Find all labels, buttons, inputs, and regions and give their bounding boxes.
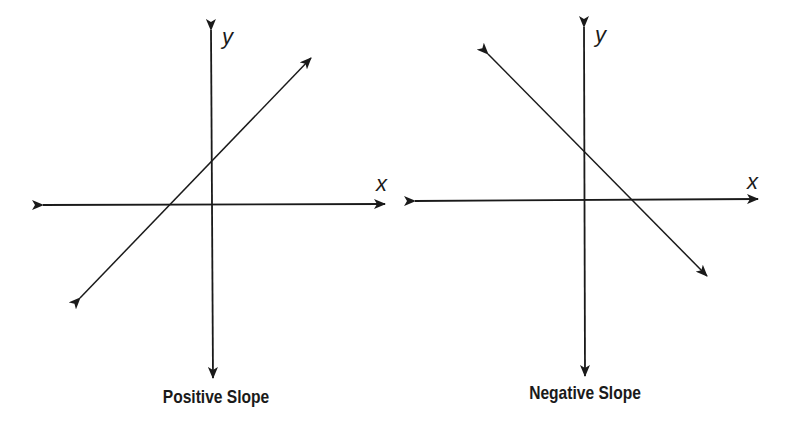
negative-slope-graph bbox=[415, 27, 758, 376]
y-axis bbox=[584, 27, 585, 376]
negative-slope-caption: Negative Slope bbox=[503, 382, 667, 404]
y-axis-label: y bbox=[595, 22, 606, 48]
positive-slope-line bbox=[80, 58, 311, 298]
x-axis bbox=[415, 199, 758, 201]
y-axis bbox=[211, 30, 213, 378]
x-axis bbox=[43, 204, 385, 205]
x-axis-label: x bbox=[747, 169, 758, 195]
negative-slope-line bbox=[488, 54, 707, 276]
x-axis-label: x bbox=[376, 171, 387, 197]
positive-slope-caption: Positive Slope bbox=[134, 386, 298, 408]
y-axis-label: y bbox=[222, 24, 233, 50]
slope-diagrams bbox=[0, 0, 794, 438]
positive-slope-graph bbox=[43, 30, 385, 378]
